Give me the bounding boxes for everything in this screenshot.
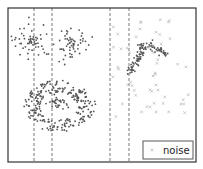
scatter-chart: noise <box>0 0 203 169</box>
legend-label-noise: noise <box>163 145 190 156</box>
legend: noise <box>143 141 193 159</box>
